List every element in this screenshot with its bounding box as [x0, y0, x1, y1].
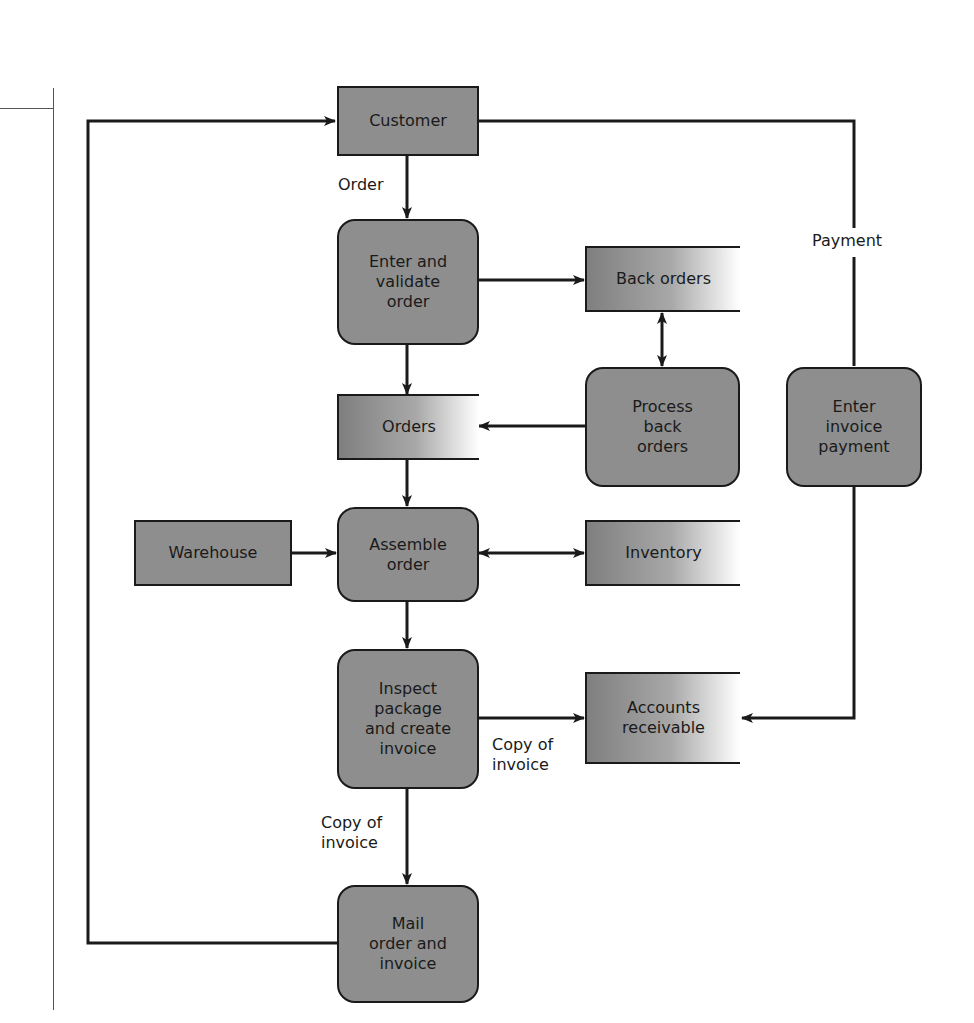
store-orders: Orders [337, 394, 479, 460]
flow-payment-to-ar [742, 486, 854, 718]
process-mail-order: Mail order and invoice [337, 885, 479, 1003]
back-orders-label: Back orders [616, 269, 711, 289]
process-enter-validate-order: Enter and validate order [337, 219, 479, 345]
external-customer: Customer [337, 86, 479, 156]
flow-lines-layer [0, 0, 974, 1023]
inspect-package-label: Inspect package and create invoice [365, 679, 451, 759]
process-back-orders: Process back orders [585, 367, 740, 487]
flow-label-order: Order [338, 175, 383, 195]
accounts-receivable-label: Accounts receivable [622, 698, 705, 738]
store-inventory: Inventory [585, 520, 740, 586]
assemble-order-label: Assemble order [369, 535, 447, 575]
external-warehouse: Warehouse [134, 520, 292, 586]
margin-rule-horizontal [0, 108, 54, 109]
store-back-orders: Back orders [585, 246, 740, 312]
customer-label: Customer [369, 111, 447, 131]
flow-customer-to-payment [478, 121, 854, 228]
inventory-label: Inventory [625, 543, 701, 563]
process-inspect-package: Inspect package and create invoice [337, 649, 479, 789]
store-accounts-receivable: Accounts receivable [585, 672, 740, 764]
enter-validate-label: Enter and validate order [369, 252, 447, 312]
orders-label: Orders [382, 417, 436, 437]
flow-label-copy-of-invoice-down: Copy of invoice [321, 813, 382, 853]
flow-label-copy-of-invoice-right: Copy of invoice [492, 735, 553, 775]
mail-order-label: Mail order and invoice [369, 914, 447, 974]
warehouse-label: Warehouse [169, 543, 258, 563]
process-enter-invoice-payment: Enter invoice payment [786, 367, 922, 487]
margin-rule-vertical [53, 88, 54, 1010]
enter-invoice-payment-label: Enter invoice payment [818, 397, 889, 457]
process-back-orders-label: Process back orders [632, 397, 693, 457]
flow-label-payment: Payment [812, 231, 882, 251]
process-assemble-order: Assemble order [337, 507, 479, 602]
